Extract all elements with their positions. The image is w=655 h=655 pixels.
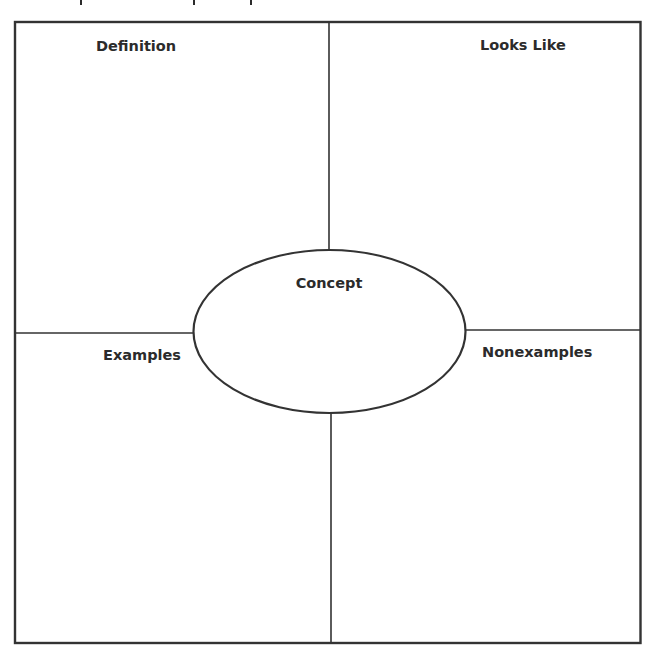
frayer-diagram: Definition Looks Like Examples Nonexampl… [0,0,655,655]
quadrant-label-definition: Definition [96,38,176,54]
quadrant-label-looks-like: Looks Like [480,37,566,53]
center-label-concept: Concept [296,275,363,291]
quadrant-label-examples: Examples [103,347,181,363]
quadrant-label-nonexamples: Nonexamples [482,344,592,360]
